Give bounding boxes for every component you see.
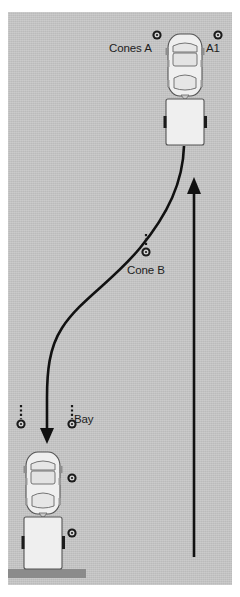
forward-approach-arrowhead [187, 177, 201, 194]
trailer-start-wheel-right [204, 116, 207, 128]
car-start-wheel-fr [201, 60, 204, 67]
trailer-finish-body [24, 517, 62, 569]
car-start-wheel-rl [167, 80, 170, 87]
car-finish-windshield [32, 493, 54, 508]
trailer-finish [22, 517, 66, 569]
reverse-curve-arrowhead [40, 428, 54, 444]
trailer-finish-wheel-right [62, 536, 65, 549]
car-start-wheel-rr [201, 80, 204, 87]
car-finish-wheel-rr [59, 498, 62, 505]
cone-a1 [213, 30, 222, 39]
label-cones-a: Cones A [109, 42, 152, 54]
cone-bay-far-left [16, 405, 25, 429]
car-finish-roof [31, 471, 55, 484]
car-start-mirror-right [201, 48, 205, 55]
trailer-start-body [166, 99, 204, 145]
car-finish-wheel-rl [25, 498, 28, 505]
car-start-mirror-left [166, 48, 170, 55]
car-start-rear-window [173, 43, 197, 52]
reverse-curve-path [40, 146, 184, 444]
car-start-wheel-fl [167, 60, 170, 67]
label-cone-b: Cone B [127, 264, 165, 276]
label-a1: A1 [206, 42, 220, 54]
trailer-finish-wheel-left [22, 536, 25, 549]
cone-bay-side-top [67, 473, 76, 482]
car-finish-mirror-right [59, 466, 63, 473]
trailer-start [164, 99, 208, 145]
diagram-canvas: Cones A A1 Cone B Bay [0, 0, 240, 597]
car-start-tow-hitch [181, 95, 189, 99]
trailer-start-wheel-left [164, 116, 167, 128]
car-finish-wheel-fl [25, 478, 28, 485]
car-start-windshield [174, 75, 196, 90]
car-finish-mirror-left [24, 466, 28, 473]
car-finish-tow-hitch [39, 513, 47, 517]
car-start-roof [173, 53, 197, 66]
cone-a-left [152, 30, 161, 39]
reverse-curve-line [47, 146, 184, 430]
car-finish-wheel-fr [59, 478, 62, 485]
car-start [166, 34, 205, 99]
forward-approach-arrow [187, 177, 201, 557]
car-finish-rear-window [31, 461, 55, 470]
diagram-vectors [0, 0, 240, 597]
cone-bay-side-bottom [67, 528, 76, 537]
label-bay: Bay [74, 413, 94, 425]
car-finish [24, 452, 63, 517]
